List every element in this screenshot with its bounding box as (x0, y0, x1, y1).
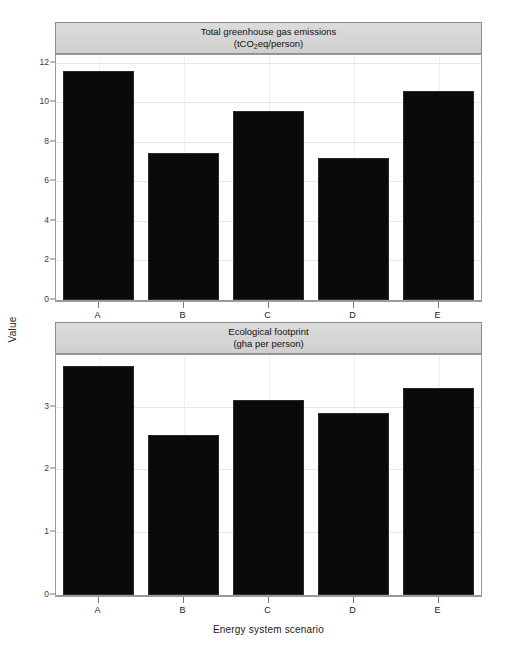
x-tick-mark (183, 597, 184, 603)
bar (403, 388, 474, 595)
y-tick-label: 0 (44, 294, 49, 304)
y-tick-label: 12 (40, 57, 49, 67)
panel-ecological-footprint: Ecological footprint (gha per person) 01… (55, 322, 482, 624)
y-tick-mark (50, 299, 55, 300)
panel-strip-header: Total greenhouse gas emissions (tCO2eq/p… (55, 22, 482, 54)
y-tick-mark (50, 219, 55, 220)
x-tick-mark (183, 302, 184, 308)
bar (148, 435, 219, 595)
panel-subtitle: (gha per person) (233, 338, 303, 350)
y-axis-label-text: Value (8, 317, 19, 343)
y-tick-mark (50, 405, 55, 406)
y-tick-mark (50, 101, 55, 102)
panel-strip-header: Ecological footprint (gha per person) (55, 322, 482, 354)
y-axis-label: Value (2, 0, 24, 659)
y-tick-label: 8 (44, 136, 49, 146)
y-tick-mark (50, 61, 55, 62)
x-tick-label: E (434, 310, 440, 320)
x-tick-mark (438, 302, 439, 308)
y-tick-label: 4 (44, 215, 49, 225)
y-tick-mark (50, 468, 55, 469)
panel-subtitle-suffix: eq/person) (258, 38, 303, 49)
x-axis-line (55, 301, 482, 302)
y-tick-mark (50, 531, 55, 532)
x-tick-label: B (179, 310, 185, 320)
bar (318, 158, 389, 300)
bar (233, 111, 304, 300)
x-tick-label: E (434, 605, 440, 615)
x-tick-label: A (94, 310, 100, 320)
x-tick-mark (353, 597, 354, 603)
panel-greenhouse-gas-emissions: Total greenhouse gas emissions (tCO2eq/p… (55, 22, 482, 310)
y-tick-label: 10 (40, 96, 49, 106)
panel-title: Total greenhouse gas emissions (201, 26, 337, 38)
x-axis-label: Energy system scenario (55, 624, 482, 635)
y-tick-label: 1 (44, 526, 49, 536)
chart-figure: Value Total greenhouse gas emissions (tC… (0, 0, 508, 659)
x-tick-label: C (264, 605, 271, 615)
x-tick-label: D (349, 310, 356, 320)
panel-title: Ecological footprint (228, 326, 308, 338)
x-tick-label: C (264, 310, 271, 320)
bar (403, 91, 474, 300)
y-tick-label: 3 (44, 401, 49, 411)
x-tick-label: B (179, 605, 185, 615)
x-axis-line (55, 596, 482, 597)
x-tick-mark (98, 597, 99, 603)
y-tick-label: 0 (44, 589, 49, 599)
y-tick-mark (50, 140, 55, 141)
y-tick-mark (50, 594, 55, 595)
y-tick-mark (50, 180, 55, 181)
x-tick-mark (353, 302, 354, 308)
bar (63, 366, 134, 595)
bar (318, 413, 389, 595)
x-tick-mark (268, 302, 269, 308)
y-tick-label: 2 (44, 463, 49, 473)
panel-subtitle-prefix: (tCO (234, 38, 254, 49)
plot-area (55, 54, 482, 301)
plot-area (55, 354, 482, 596)
x-tick-label: A (94, 605, 100, 615)
x-tick-mark (268, 597, 269, 603)
bar (63, 71, 134, 300)
y-tick-mark (50, 259, 55, 260)
y-tick-label: 6 (44, 175, 49, 185)
panel-subtitle: (tCO2eq/person) (234, 38, 303, 50)
x-tick-label: D (349, 605, 356, 615)
bar (148, 153, 219, 300)
panel-subtitle-subscript: 2 (254, 43, 258, 50)
x-tick-mark (438, 597, 439, 603)
x-tick-mark (98, 302, 99, 308)
y-tick-label: 2 (44, 254, 49, 264)
bar (233, 400, 304, 595)
